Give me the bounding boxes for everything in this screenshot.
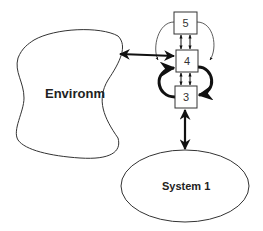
loop-4-to-3-bold — [198, 67, 212, 95]
box-4-label: 4 — [184, 55, 190, 67]
diagram-canvas: Environm System 1 5 4 3 — [0, 0, 263, 231]
box-5: 5 — [174, 12, 197, 34]
box-4: 4 — [176, 50, 198, 72]
arrow-environment-box4 — [120, 54, 174, 56]
system1-node: System 1 — [121, 150, 249, 222]
box-3: 3 — [175, 86, 197, 108]
loop-5-to-4-right — [197, 22, 214, 60]
loop-5-to-4-left — [156, 22, 174, 60]
loop-3-to-4-bold — [159, 68, 175, 97]
box-5-label: 5 — [182, 17, 188, 29]
environment-label: Environm — [45, 86, 105, 101]
box-3-label: 3 — [183, 91, 189, 103]
environment-node: Environm — [16, 30, 122, 159]
system1-label: System 1 — [162, 180, 210, 192]
